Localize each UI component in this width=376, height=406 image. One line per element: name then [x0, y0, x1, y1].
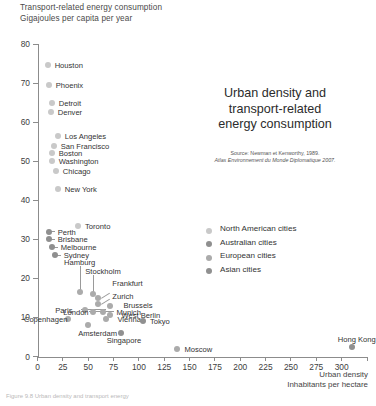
y-tick-mark	[33, 278, 38, 279]
data-point	[46, 236, 52, 242]
y-tick-label: 60	[8, 117, 30, 127]
label-leader-line	[101, 292, 110, 298]
legend-label: Asian cities	[220, 265, 261, 274]
data-point	[55, 186, 61, 192]
data-point	[49, 150, 55, 156]
y-tick-label: 0	[8, 352, 30, 362]
y-axis-line	[38, 44, 39, 357]
x-tick-mark	[37, 357, 38, 361]
data-point	[46, 229, 52, 235]
y-tick-mark	[33, 161, 38, 162]
chart-title-line3: energy consumption	[185, 117, 365, 133]
label-leader-line	[51, 231, 55, 232]
chart-title-line1: Urban density and	[185, 86, 365, 102]
data-point-label: Washington	[59, 157, 99, 166]
data-point	[75, 223, 81, 229]
figure-caption: Figure 9.8 Urban density and transport e…	[6, 393, 129, 399]
data-point	[95, 295, 101, 301]
source-line1: Source: Newman et Kenworthy, 1989.	[185, 150, 365, 157]
y-tick-mark	[33, 239, 38, 240]
x-tick-mark	[164, 357, 165, 361]
data-point	[140, 318, 146, 324]
y-tick-mark	[33, 200, 38, 201]
chart-title-line2: transport-related	[185, 102, 365, 118]
data-point-label: Frankfurt	[112, 279, 142, 288]
y-tick-label: 80	[8, 39, 30, 49]
data-point-label: Chicago	[63, 167, 91, 176]
x-tick-mark	[316, 357, 317, 361]
data-point	[55, 133, 61, 139]
x-tick-mark	[290, 357, 291, 361]
x-tick-mark	[113, 357, 114, 361]
legend-marker-icon	[206, 255, 212, 261]
y-tick-mark	[33, 122, 38, 123]
data-point	[95, 301, 101, 307]
y-tick-label: 50	[8, 156, 30, 166]
y-tick-label: 30	[8, 234, 30, 244]
label-leader-line	[54, 247, 58, 248]
data-point	[52, 252, 58, 258]
data-point	[85, 322, 91, 328]
label-leader-line	[51, 239, 55, 240]
data-point	[107, 303, 113, 309]
x-axis-title-line2: Inhabitants per hectare	[248, 380, 368, 390]
y-tick-mark	[33, 83, 38, 84]
data-point-label: Zurich	[112, 292, 133, 301]
data-point	[45, 62, 51, 68]
x-tick-mark	[214, 357, 215, 361]
data-point	[174, 346, 180, 352]
x-tick-mark	[138, 357, 139, 361]
label-leader-line	[93, 275, 94, 292]
data-point-label: Houston	[55, 61, 83, 70]
y-tick-label: 20	[8, 273, 30, 283]
data-point-label: Singapore	[107, 336, 142, 345]
x-axis-title: Urban density Inhabitants per hectare	[248, 370, 368, 389]
data-point	[51, 143, 57, 149]
source-note: Source: Newman et Kenworthy, 1989. Atlas…	[185, 150, 365, 164]
data-point	[48, 109, 54, 115]
data-point-label: Moscow	[184, 345, 212, 354]
legend-marker-icon	[206, 268, 212, 274]
data-point-label: Denver	[58, 108, 82, 117]
data-point	[46, 82, 52, 88]
data-point	[49, 244, 55, 250]
data-point-label: Los Angeles	[65, 132, 106, 141]
chart-title: Urban density and transport-related ener…	[185, 86, 365, 133]
data-point-label: Detroit	[59, 99, 81, 108]
x-tick-mark	[88, 357, 89, 361]
data-point-label: Toronto	[85, 222, 110, 231]
legend-marker-icon	[206, 241, 212, 247]
data-point	[53, 168, 59, 174]
data-point	[103, 316, 109, 322]
x-tick-mark	[367, 357, 368, 361]
data-point-label: Hamburg	[64, 258, 95, 267]
data-point-label: Stockholm	[85, 267, 120, 276]
data-point	[349, 344, 355, 350]
label-leader-line	[80, 266, 81, 290]
legend-label: Australian cities	[220, 238, 277, 247]
x-tick-mark	[265, 357, 266, 361]
legend-marker-icon	[206, 228, 212, 234]
data-point-label: Tokyo	[150, 317, 170, 326]
x-tick-mark	[341, 357, 342, 361]
data-point-label: New York	[65, 185, 97, 194]
data-point	[90, 309, 96, 315]
data-point	[77, 289, 83, 295]
legend-label: European cities	[220, 251, 276, 260]
data-point	[100, 309, 106, 315]
y-tick-label: 40	[8, 195, 30, 205]
source-line2: Atlas Environnement du Monde Diplomatiqu…	[185, 157, 365, 164]
data-point-label: Vienna	[117, 315, 141, 324]
y-tick-mark	[33, 44, 38, 45]
legend-label: North American cities	[220, 224, 296, 233]
data-point	[49, 158, 55, 164]
data-point-label: Copenhagen	[24, 315, 68, 324]
data-point-label: Hong Kong	[338, 335, 376, 344]
data-point	[49, 100, 55, 106]
x-tick-mark	[62, 357, 63, 361]
data-point-label: Phoenix	[56, 81, 83, 90]
x-tick-mark	[240, 357, 241, 361]
y-tick-label: 70	[8, 78, 30, 88]
